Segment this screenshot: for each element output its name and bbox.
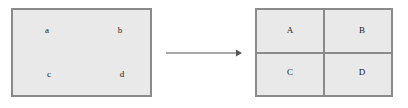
quadrant-label-b: B [355, 26, 369, 35]
region-label-d: d [115, 70, 129, 79]
region-label-b: b [113, 26, 127, 35]
region-label-c: c [42, 70, 56, 79]
quadrant-rectangle-panel: A B C D [255, 8, 393, 97]
transformation-diagram: a b c d A B C D [0, 0, 408, 108]
quadrant-label-d: D [355, 68, 369, 77]
arrow-right-icon [166, 46, 242, 60]
quadrant-label-c: C [283, 68, 297, 77]
transformation-arrow [166, 46, 242, 60]
quadrant-label-a: A [283, 26, 297, 35]
region-label-a: a [40, 26, 54, 35]
undivided-rectangle-panel: a b c d [11, 8, 152, 97]
horizontal-divider-line [257, 52, 391, 54]
